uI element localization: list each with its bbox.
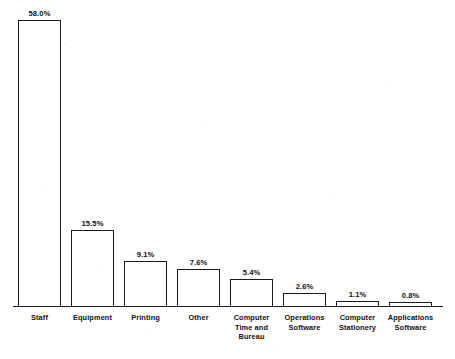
scan-speck — [390, 86, 391, 87]
bar — [177, 269, 220, 306]
bar — [230, 279, 273, 306]
bar-value-label: 5.4% — [220, 268, 283, 277]
category-label-line: Software — [378, 323, 443, 333]
bar — [71, 230, 114, 306]
scan-speck — [42, 186, 43, 187]
bar-value-label: 15.5% — [61, 219, 124, 228]
bar-chart: 58.0%15.5%9.1%7.6%5.4%2.6%1.1%0.8% Staff… — [0, 0, 455, 359]
category-label-line: Applications — [378, 313, 443, 323]
x-axis-line — [13, 306, 443, 307]
bar — [336, 301, 379, 306]
bar-value-label: 7.6% — [167, 258, 230, 267]
scan-speck — [278, 344, 279, 345]
plot-area: 58.0%15.5%9.1%7.6%5.4%2.6%1.1%0.8% Staff… — [0, 0, 455, 359]
scan-speck — [150, 330, 152, 331]
bar — [389, 302, 432, 306]
scan-speck — [330, 198, 332, 199]
bar-value-label: 0.8% — [379, 291, 442, 300]
bar — [18, 20, 61, 306]
category-label-line: Bureau — [219, 332, 284, 342]
bar — [124, 261, 167, 306]
category-label: ApplicationsSoftware — [378, 313, 443, 332]
scan-speck — [96, 268, 97, 269]
scan-speck — [64, 44, 66, 45]
bar — [283, 293, 326, 306]
scan-speck — [206, 120, 207, 121]
bar-value-label: 58.0% — [8, 9, 71, 18]
